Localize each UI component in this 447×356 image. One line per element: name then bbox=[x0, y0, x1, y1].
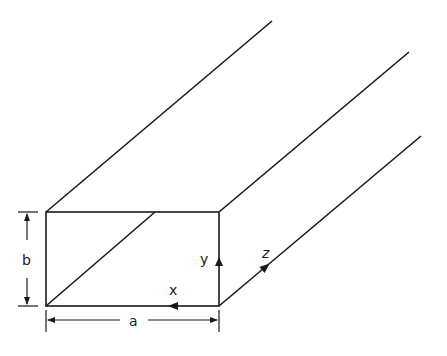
y-axis-arrow-icon bbox=[215, 257, 223, 266]
hidden-diagonal-edge bbox=[46, 212, 155, 306]
top-left-receding-edge bbox=[46, 21, 272, 212]
waveguide-diagram: b a y x z bbox=[0, 0, 447, 356]
diagram-svg: b a y x z bbox=[0, 0, 447, 356]
label-a: a bbox=[129, 313, 138, 329]
label-z: z bbox=[261, 245, 270, 261]
front-face bbox=[46, 212, 219, 306]
label-b: b bbox=[22, 252, 31, 268]
top-right-receding-edge bbox=[219, 52, 409, 212]
label-x: x bbox=[169, 282, 177, 298]
bottom-right-receding-edge bbox=[219, 136, 421, 306]
label-y: y bbox=[200, 251, 208, 267]
x-axis-arrow-icon bbox=[168, 302, 178, 310]
